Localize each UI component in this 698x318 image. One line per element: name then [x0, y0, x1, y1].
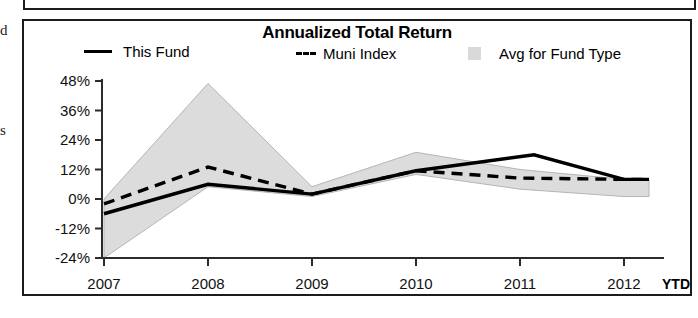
- y-tick-label: -12%: [55, 220, 90, 237]
- x-axis-ytd-label: YTD: [662, 276, 690, 292]
- x-tick-label: 2008: [191, 275, 224, 292]
- series-area-avg-for-fund-type: [104, 83, 649, 258]
- x-tick-label: 2009: [295, 275, 328, 292]
- y-tick-label: 48%: [60, 72, 90, 89]
- y-tick-label: 0%: [68, 190, 90, 207]
- y-tick-label: 36%: [60, 102, 90, 119]
- annualized-total-return-chart: Annualized Total Return This Fund Muni I…: [22, 19, 692, 296]
- x-tick-label: 2011: [504, 275, 536, 292]
- x-tick-label: 2007: [87, 275, 120, 292]
- x-axis-tick-labels: 200720082009201020112012: [87, 275, 640, 292]
- plot-area: 48%36%24%12%0%-12%-24% 20072008200920102…: [24, 21, 694, 298]
- y-tick-label: -24%: [55, 249, 90, 266]
- x-axis-ticks: [104, 258, 624, 266]
- y-axis-ticks: [95, 81, 102, 258]
- y-axis-tick-labels: 48%36%24%12%0%-12%-24%: [55, 72, 90, 266]
- margin-text-fragment-middle: s: [0, 122, 6, 139]
- margin-text-fragment-top: d: [0, 22, 8, 39]
- x-tick-label: 2012: [607, 275, 640, 292]
- y-tick-label: 12%: [60, 161, 90, 178]
- y-tick-label: 24%: [60, 131, 90, 148]
- x-tick-label: 2010: [399, 275, 432, 292]
- panel-above-chart: [23, 0, 696, 10]
